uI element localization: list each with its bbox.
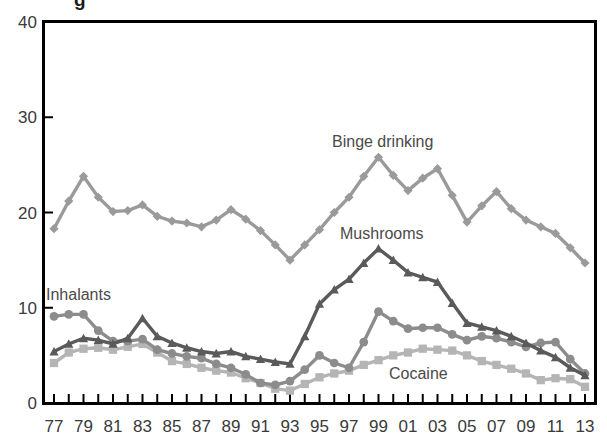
y-tick-label: 40 [18, 13, 37, 32]
x-tick-label: 79 [74, 417, 93, 436]
data-point-marker [50, 359, 58, 367]
y-tick-label: 0 [28, 394, 37, 413]
x-tick-label: 13 [576, 417, 595, 436]
x-tick-label: 01 [399, 417, 418, 436]
x-tick-label: 09 [517, 417, 536, 436]
data-point-marker [271, 381, 280, 390]
data-point-marker [492, 334, 501, 343]
data-point-marker [153, 345, 162, 354]
x-tick-label: 91 [251, 417, 270, 436]
data-point-marker [507, 365, 515, 373]
data-point-marker [551, 374, 559, 382]
x-tick-label: 87 [192, 417, 211, 436]
data-point-marker [551, 338, 560, 347]
annotation-cocaine: Cocaine [389, 365, 448, 382]
data-point-marker [360, 361, 368, 369]
y-tick-label: 30 [18, 108, 37, 127]
annotation-mushrooms: Mushrooms [340, 225, 424, 242]
data-point-marker [404, 324, 413, 333]
annotation-inhalants: Inhalants [46, 286, 111, 303]
annotation-binge-drinking: Binge drinking [332, 133, 433, 150]
data-point-marker [300, 365, 309, 374]
x-tick-label: 99 [369, 417, 388, 436]
data-point-marker [286, 377, 295, 386]
data-point-marker [404, 348, 412, 356]
x-tick-label: 05 [458, 417, 477, 436]
data-point-marker [566, 375, 574, 383]
data-point-marker [241, 370, 250, 379]
chart-container: g 010203040 7779818385878991939597990103… [0, 0, 607, 441]
data-point-marker [315, 351, 324, 360]
data-point-marker [94, 344, 102, 352]
x-tick-label: 07 [487, 417, 506, 436]
data-point-marker [79, 345, 87, 353]
x-tick-label: 89 [222, 417, 241, 436]
data-point-marker [94, 326, 103, 335]
data-point-marker [566, 355, 575, 364]
data-point-marker [79, 310, 88, 319]
x-tick-label: 11 [547, 417, 565, 436]
data-point-marker [65, 348, 73, 356]
data-point-marker [463, 336, 472, 345]
chart-background [0, 0, 607, 441]
data-point-marker [168, 357, 176, 365]
data-point-marker [168, 349, 177, 358]
data-point-marker [478, 357, 486, 365]
data-point-marker [138, 335, 147, 344]
data-point-marker [182, 352, 191, 361]
data-point-marker [492, 361, 500, 369]
x-tick-label: 95 [310, 417, 329, 436]
data-point-marker [315, 373, 323, 381]
chart-title-fragment: g [74, 0, 86, 10]
x-tick-label: 83 [133, 417, 152, 436]
data-point-marker [212, 360, 221, 369]
data-point-marker [448, 346, 456, 354]
x-tick-label: 93 [281, 417, 300, 436]
data-point-marker [227, 363, 236, 372]
data-point-marker [64, 310, 73, 319]
data-point-marker [345, 363, 354, 372]
data-point-marker [374, 307, 383, 316]
data-point-marker [477, 332, 486, 341]
data-point-marker [433, 346, 441, 354]
data-point-marker [197, 364, 205, 372]
data-point-marker [301, 380, 309, 388]
x-tick-label: 03 [428, 417, 447, 436]
data-point-marker [50, 312, 59, 321]
data-point-marker [330, 369, 338, 377]
data-point-marker [522, 369, 530, 377]
y-tick-label: 10 [18, 299, 37, 318]
line-chart: g 010203040 7779818385878991939597990103… [0, 0, 607, 441]
x-tick-label: 81 [104, 417, 123, 436]
data-point-marker [448, 330, 457, 339]
data-point-marker [330, 359, 339, 368]
data-point-marker [256, 379, 265, 388]
data-point-marker [419, 345, 427, 353]
y-tick-label: 20 [18, 204, 37, 223]
data-point-marker [359, 338, 368, 347]
x-tick-label: 85 [163, 417, 182, 436]
data-point-marker [389, 317, 398, 326]
data-point-marker [389, 351, 397, 359]
data-point-marker [183, 360, 191, 368]
data-point-marker [286, 386, 294, 394]
data-point-marker [374, 356, 382, 364]
data-point-marker [418, 323, 427, 332]
data-point-marker [581, 383, 589, 391]
data-point-marker [537, 376, 545, 384]
data-point-marker [433, 323, 442, 332]
data-point-marker [463, 351, 471, 359]
x-tick-label: 97 [340, 417, 359, 436]
x-tick-label: 77 [45, 417, 64, 436]
